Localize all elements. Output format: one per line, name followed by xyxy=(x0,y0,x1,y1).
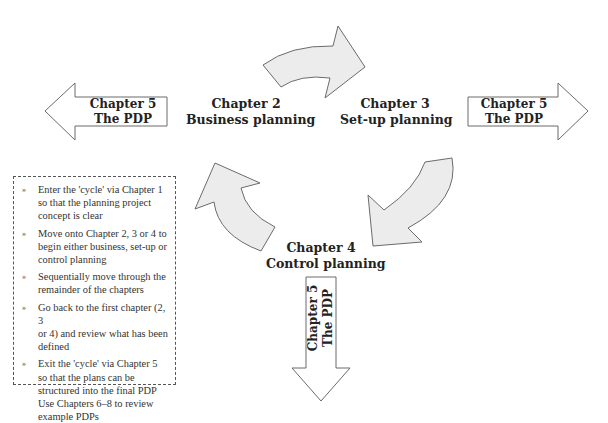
cycle-arrow-4-to-2 xyxy=(195,163,275,251)
instruction-line: Move onto Chapter 2, 3 or 4 to xyxy=(38,227,169,240)
right-exit-label-line2: The PDP xyxy=(476,112,552,127)
double-chevron-bullet-icon: » xyxy=(22,183,24,196)
instructions-list: » Enter the 'cycle' via Chapter 1 so tha… xyxy=(22,183,169,423)
right-exit-label-line1: Chapter 5 xyxy=(476,97,552,112)
instruction-line: so that the plans can be xyxy=(38,371,169,384)
instruction-line: Go back to the first chapter (2, 3 xyxy=(38,301,169,327)
instruction-line: remainder of the chapters xyxy=(38,283,169,296)
instruction-line: concept is clear xyxy=(38,209,169,222)
down-exit-label-line2: The PDP xyxy=(321,285,336,351)
chapter3-subtitle: Set-up planning xyxy=(340,112,450,128)
chapter2-title: Chapter 2 xyxy=(186,96,306,112)
instruction-item: » Sequentially move through the remainde… xyxy=(22,270,169,296)
left-exit-label: Chapter 5 The PDP xyxy=(88,97,158,127)
left-exit-label-line2: The PDP xyxy=(88,112,158,127)
instruction-line: begin either business, set-up or xyxy=(38,240,169,253)
instruction-item: » Enter the 'cycle' via Chapter 1 so tha… xyxy=(22,183,169,223)
chapter2-node: Chapter 2 Business planning xyxy=(186,96,306,128)
down-exit-label: Chapter 5 The PDP xyxy=(306,285,336,351)
instruction-line: Use Chapters 6–8 to review xyxy=(38,397,169,410)
chapter2-subtitle: Business planning xyxy=(186,112,306,128)
double-chevron-bullet-icon: » xyxy=(22,301,24,314)
left-exit-label-line1: Chapter 5 xyxy=(88,97,158,112)
instruction-line: Sequentially move through the xyxy=(38,270,169,283)
cycle-arrow-2-to-3 xyxy=(263,26,365,98)
instruction-line: so that the planning project xyxy=(38,196,169,209)
instruction-line: defined xyxy=(38,340,169,353)
chapter3-title: Chapter 3 xyxy=(340,96,450,112)
chapter4-subtitle: Control planning xyxy=(266,256,376,272)
instruction-line: Exit the 'cycle' via Chapter 5 xyxy=(38,357,169,370)
double-chevron-bullet-icon: » xyxy=(22,270,24,283)
chapter4-title: Chapter 4 xyxy=(266,240,376,256)
chapter4-node: Chapter 4 Control planning xyxy=(266,240,376,272)
instruction-item: » Move onto Chapter 2, 3 or 4 to begin e… xyxy=(22,227,169,267)
instructions-box: » Enter the 'cycle' via Chapter 1 so tha… xyxy=(13,176,176,385)
down-exit-label-line1: Chapter 5 xyxy=(306,285,321,351)
instruction-line: control planning xyxy=(38,253,169,266)
instruction-item: » Go back to the first chapter (2, 3 or … xyxy=(22,301,169,354)
double-chevron-bullet-icon: » xyxy=(22,227,24,240)
double-chevron-bullet-icon: » xyxy=(22,357,24,370)
cycle-arrow-3-to-4 xyxy=(368,158,453,246)
instruction-item: » Exit the 'cycle' via Chapter 5 so that… xyxy=(22,357,169,423)
instruction-line: example PDPs xyxy=(38,410,169,423)
instruction-line: Enter the 'cycle' via Chapter 1 xyxy=(38,183,169,196)
instruction-line: or 4) and review what has been xyxy=(38,327,169,340)
right-exit-label: Chapter 5 The PDP xyxy=(476,97,552,127)
instruction-line: structured into the final PDP xyxy=(38,384,169,397)
chapter3-node: Chapter 3 Set-up planning xyxy=(340,96,450,128)
